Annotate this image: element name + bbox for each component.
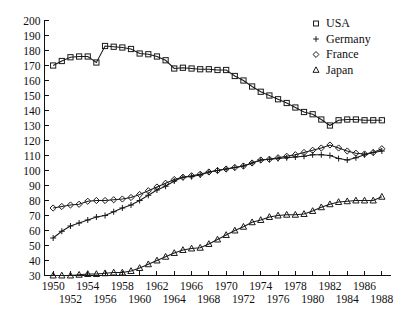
x-tick-label: 1958 xyxy=(111,280,134,292)
y-axis: 3040506070809010011012013014015016017018… xyxy=(23,15,49,282)
legend-marker-germany xyxy=(313,36,319,42)
legend-label-usa: USA xyxy=(326,16,350,30)
y-tick-label: 130 xyxy=(23,120,41,132)
x-tick-label: 1964 xyxy=(163,293,186,305)
y-tick-label: 180 xyxy=(23,45,41,57)
series-japan xyxy=(50,193,385,278)
y-tick-label: 30 xyxy=(29,270,41,282)
x-tick-label: 1954 xyxy=(76,280,99,292)
y-tick-label: 100 xyxy=(23,165,41,177)
x-tick-label: 1988 xyxy=(370,293,393,305)
data-point-marker xyxy=(344,157,350,163)
data-point-marker xyxy=(111,209,117,215)
y-tick-label: 90 xyxy=(29,180,41,192)
legend-label-germany: Germany xyxy=(326,32,371,46)
chart-canvas: 3040506070809010011012013014015016017018… xyxy=(0,0,417,328)
x-tick-label: 1962 xyxy=(145,280,168,292)
line-chart: 3040506070809010011012013014015016017018… xyxy=(0,0,417,328)
legend-marker-usa xyxy=(314,21,319,26)
data-point-marker xyxy=(128,202,134,208)
data-point-marker xyxy=(93,214,99,220)
y-tick-label: 70 xyxy=(29,210,41,222)
data-series-group xyxy=(50,43,385,278)
y-tick-label: 60 xyxy=(29,225,41,237)
x-tick-label: 1950 xyxy=(42,280,65,292)
y-tick-label: 120 xyxy=(23,135,41,147)
y-tick-label: 40 xyxy=(29,255,41,267)
x-tick-label: 1952 xyxy=(59,293,82,305)
x-tick-label: 1960 xyxy=(128,293,151,305)
data-point-marker xyxy=(102,213,108,219)
y-tick-label: 110 xyxy=(24,150,41,162)
y-tick-label: 160 xyxy=(23,75,41,87)
x-tick-label: 1970 xyxy=(215,280,238,292)
series-germany xyxy=(50,148,385,241)
y-tick-label: 200 xyxy=(23,15,41,27)
legend-label-japan: Japan xyxy=(326,63,353,77)
legend-marker-france xyxy=(313,52,319,58)
x-tick-label: 1966 xyxy=(180,280,203,292)
y-tick-label: 50 xyxy=(29,240,41,252)
y-tick-label: 140 xyxy=(23,105,41,117)
data-point-marker xyxy=(327,153,333,159)
x-tick-label: 1980 xyxy=(301,293,324,305)
y-tick-label: 80 xyxy=(29,195,41,207)
x-tick-label: 1986 xyxy=(353,280,376,292)
y-tick-label: 170 xyxy=(23,60,41,72)
x-tick-label: 1982 xyxy=(318,280,341,292)
data-point-marker xyxy=(336,156,342,162)
x-tick-label: 1968 xyxy=(197,293,220,305)
data-point-marker xyxy=(67,223,73,229)
chart-legend: USAGermanyFranceJapan xyxy=(313,16,371,77)
x-tick-label: 1972 xyxy=(232,293,255,305)
x-tick-label: 1984 xyxy=(336,293,359,305)
y-tick-label: 190 xyxy=(23,30,41,42)
series-france xyxy=(50,142,385,211)
data-point-marker xyxy=(379,193,385,199)
x-tick-label: 1956 xyxy=(94,293,117,305)
x-tick-label: 1976 xyxy=(267,293,290,305)
data-point-marker xyxy=(85,217,91,223)
series-line xyxy=(53,145,382,208)
data-point-marker xyxy=(137,198,143,204)
legend-marker-japan xyxy=(313,67,319,72)
data-point-marker xyxy=(119,205,125,211)
y-tick-label: 150 xyxy=(23,90,41,102)
data-point-marker xyxy=(76,220,82,226)
legend-label-france: France xyxy=(326,47,359,61)
series-line xyxy=(53,151,382,238)
data-point-marker xyxy=(318,152,324,158)
x-tick-label: 1978 xyxy=(284,280,307,292)
x-tick-label: 1974 xyxy=(249,280,272,292)
